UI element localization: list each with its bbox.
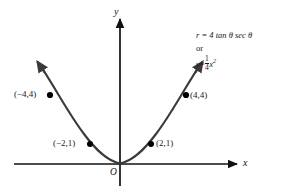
equation-annotation: r = 4 tan θ sec θ or y=14x2 xyxy=(196,29,284,72)
point-label-neg4-4: (−4,4) xyxy=(14,90,36,99)
point-label-4-4: (4,4) xyxy=(190,91,207,100)
equation-connector: or xyxy=(196,42,284,55)
point-label-2-1: (2,1) xyxy=(156,139,173,148)
cartesian-exponent: 2 xyxy=(213,59,216,65)
polar-equation: r = 4 tan θ sec θ xyxy=(196,29,284,42)
x-axis-label: x xyxy=(243,158,247,168)
origin-label: O xyxy=(110,168,117,178)
cartesian-equation: y=14x2 xyxy=(196,55,284,72)
parabola-figure: (−4,4) (4,4) (−2,1) (2,1) y x O r = 4 ta… xyxy=(0,0,286,196)
cartesian-equals: = xyxy=(200,60,205,70)
point-label-neg2-1: (−2,1) xyxy=(53,139,75,148)
point-marker xyxy=(87,141,93,147)
point-marker xyxy=(47,92,53,98)
curve-left-arrow-icon xyxy=(37,61,45,73)
point-marker xyxy=(183,92,189,98)
point-marker xyxy=(148,141,154,147)
y-axis-label: y xyxy=(114,7,118,17)
